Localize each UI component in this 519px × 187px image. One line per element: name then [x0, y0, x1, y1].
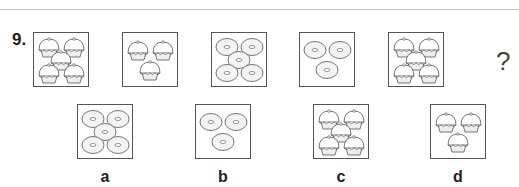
cupcake-icon [153, 41, 173, 60]
sequence-box-3 [211, 32, 267, 87]
donut-icon [225, 114, 247, 131]
cupcake-icon [448, 133, 468, 152]
donut-icon [329, 42, 351, 59]
donut-icon [216, 65, 238, 82]
question-number: 9. [12, 30, 26, 50]
cupcake-icon [436, 113, 456, 132]
cupcake-icon [140, 61, 160, 80]
option-box-b[interactable] [195, 104, 251, 159]
donut-icon [304, 42, 326, 59]
sequence-box-5 [388, 32, 444, 87]
donut-icon [107, 137, 129, 154]
donut-icon [82, 137, 104, 154]
option-box-d[interactable] [430, 104, 486, 159]
donut-icon [316, 62, 338, 79]
option-box-a[interactable] [77, 104, 133, 159]
option-label-c[interactable]: c [312, 168, 370, 186]
sequence-box-2 [122, 32, 178, 87]
option-box-c[interactable] [313, 104, 369, 159]
donut-icon [200, 114, 222, 131]
sequence-box-4 [299, 32, 355, 87]
option-label-d[interactable]: d [429, 168, 487, 186]
sequence-box-1 [33, 32, 89, 87]
option-label-a[interactable]: a [76, 168, 134, 186]
cupcake-icon [128, 41, 148, 60]
donut-icon [212, 134, 234, 151]
option-label-b[interactable]: b [194, 168, 252, 186]
cupcake-icon [461, 113, 481, 132]
question-mark: ? [496, 46, 510, 77]
top-divider [0, 9, 519, 10]
donut-icon [241, 65, 263, 82]
